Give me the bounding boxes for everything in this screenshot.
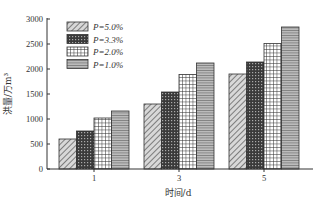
bar — [77, 131, 95, 169]
legend-swatch — [67, 35, 88, 44]
legend-label: P=2.0% — [92, 47, 123, 57]
bar — [179, 75, 197, 170]
legend: P=5.0%P=3.3%P=2.0%P=1.0% — [67, 22, 123, 70]
x-tick-label: 3 — [177, 173, 181, 183]
x-axis: 135 — [47, 169, 313, 183]
y-tick-label: 500 — [30, 139, 43, 149]
y-tick-label: 3000 — [26, 14, 43, 24]
bar-chart: 050010001500200025003000 135 P=5.0%P=3.3… — [0, 0, 322, 204]
legend-swatch — [67, 47, 88, 56]
y-tick-label: 1500 — [26, 89, 43, 99]
y-axis-label: 洪量/万m³ — [2, 73, 13, 116]
x-axis-label: 时间/d — [165, 187, 192, 198]
bar — [247, 62, 265, 169]
bar — [59, 139, 77, 169]
legend-label: P=3.3% — [92, 35, 123, 45]
bar — [144, 104, 162, 169]
y-tick-label: 1000 — [26, 114, 43, 124]
legend-swatch — [67, 60, 88, 69]
bar — [264, 44, 282, 170]
x-tick-label: 5 — [262, 173, 266, 183]
bar — [229, 74, 247, 169]
legend-label: P=1.0% — [92, 60, 123, 70]
bar — [162, 92, 180, 169]
x-tick-label: 1 — [92, 173, 96, 183]
bar — [94, 118, 112, 169]
bar — [197, 63, 215, 169]
bar — [112, 111, 130, 169]
bar — [282, 27, 300, 169]
y-tick-label: 2500 — [26, 39, 43, 49]
y-tick-label: 0 — [39, 164, 43, 174]
y-axis: 050010001500200025003000 — [26, 14, 50, 174]
legend-swatch — [67, 22, 88, 31]
y-tick-label: 2000 — [26, 64, 43, 74]
legend-label: P=5.0% — [92, 22, 123, 32]
